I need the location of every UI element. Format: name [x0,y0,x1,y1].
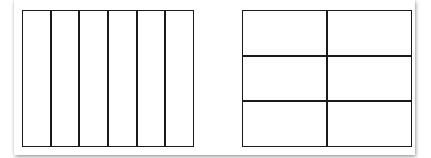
vertical-divider [107,10,109,147]
vertical-divider [50,10,52,147]
horizontal-divider [242,100,412,102]
vertical-divider [136,10,138,147]
vertical-divider [164,10,166,147]
vertical-divider [326,10,328,147]
vertical-divider [78,10,80,147]
horizontal-divider [242,55,412,57]
